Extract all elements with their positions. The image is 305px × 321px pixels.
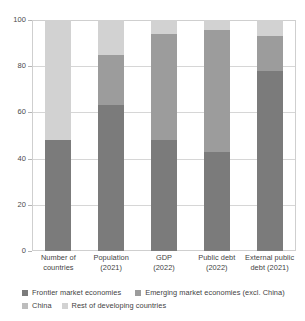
bar-slot (190, 20, 243, 251)
x-axis-label: Number ofcountries (28, 253, 89, 273)
bar-segment[interactable] (204, 152, 230, 251)
legend-label-china: China (32, 301, 52, 310)
y-tick-label: 80 (17, 62, 26, 70)
y-tick-label: 60 (17, 108, 26, 116)
legend-label-frontier-market-economies: Frontier market economies (32, 288, 121, 297)
bar-stack[interactable] (151, 20, 177, 251)
y-axis: 020406080100 (0, 20, 32, 251)
bar-stack[interactable] (204, 20, 230, 251)
legend-swatch-rest-of-developing-countries (62, 303, 68, 309)
y-tick-label: 40 (17, 155, 26, 163)
bar-segment[interactable] (151, 34, 177, 140)
y-tick-label: 100 (13, 16, 26, 24)
x-axis-label-line: Number of (41, 253, 76, 262)
bar-segment[interactable] (98, 105, 124, 251)
bar-slot (32, 20, 85, 251)
x-axis-label-line: GDP (156, 253, 172, 262)
bar-segment[interactable] (45, 20, 71, 140)
legend-label-emerging-market-economies: Emerging market economies (excl. China) (145, 288, 285, 297)
x-axis-label-line: countries (28, 263, 89, 273)
x-axis-label-line: debt (2021) (239, 263, 300, 273)
x-axis-label: External publicdebt (2021) (239, 253, 300, 273)
legend-item-china[interactable]: China (22, 301, 52, 310)
bar-segment[interactable] (204, 20, 230, 30)
legend-item-rest-of-developing-countries[interactable]: Rest of developing countries (62, 301, 167, 310)
x-axis-label-line: (2022) (186, 263, 247, 273)
bar-segment[interactable] (98, 55, 124, 106)
x-axis-labels: Number ofcountriesPopulation(2021)GDP(20… (32, 253, 296, 283)
bar-slot (243, 20, 296, 251)
bar-segment[interactable] (204, 30, 230, 151)
x-axis-label: Public debt(2022) (186, 253, 247, 273)
x-axis-label-line: Population (93, 253, 128, 262)
stacked-bar-chart: 020406080100 Number ofcountriesPopulatio… (0, 0, 305, 321)
bar-segment[interactable] (257, 36, 283, 71)
bar-segment[interactable] (151, 20, 177, 34)
y-tick-label: 20 (17, 201, 26, 209)
legend-item-frontier-market-economies[interactable]: Frontier market economies (22, 288, 121, 297)
x-axis-label-line: (2022) (134, 263, 195, 273)
bar-segment[interactable] (45, 140, 71, 251)
bar-slot (85, 20, 138, 251)
legend-swatch-china (22, 303, 28, 309)
bars-layer (32, 20, 296, 251)
legend-label-rest-of-developing-countries: Rest of developing countries (72, 301, 167, 310)
bar-stack[interactable] (45, 20, 71, 251)
legend-item-emerging-market-economies[interactable]: Emerging market economies (excl. China) (135, 288, 285, 297)
y-tick-mark (28, 251, 32, 252)
x-axis-label: GDP(2022) (134, 253, 195, 273)
y-tick-label: 0 (22, 247, 26, 255)
chart-legend: Frontier market economies Emerging marke… (22, 286, 298, 312)
bar-segment[interactable] (98, 20, 124, 55)
legend-swatch-frontier-market-economies (22, 290, 28, 296)
bar-segment[interactable] (257, 20, 283, 36)
bar-segment[interactable] (151, 140, 177, 251)
legend-swatch-emerging-market-economies (135, 290, 141, 296)
x-axis-label-line: (2021) (81, 263, 142, 273)
x-axis-label-line: Public debt (198, 253, 235, 262)
x-axis-label: Population(2021) (81, 253, 142, 273)
bar-segment[interactable] (257, 71, 283, 251)
bar-stack[interactable] (98, 20, 124, 251)
x-axis-label-line: External public (245, 253, 294, 262)
bar-stack[interactable] (257, 20, 283, 251)
legend-row-2: China Rest of developing countries (22, 299, 298, 312)
bar-slot (138, 20, 191, 251)
legend-row-1: Frontier market economies Emerging marke… (22, 286, 298, 299)
